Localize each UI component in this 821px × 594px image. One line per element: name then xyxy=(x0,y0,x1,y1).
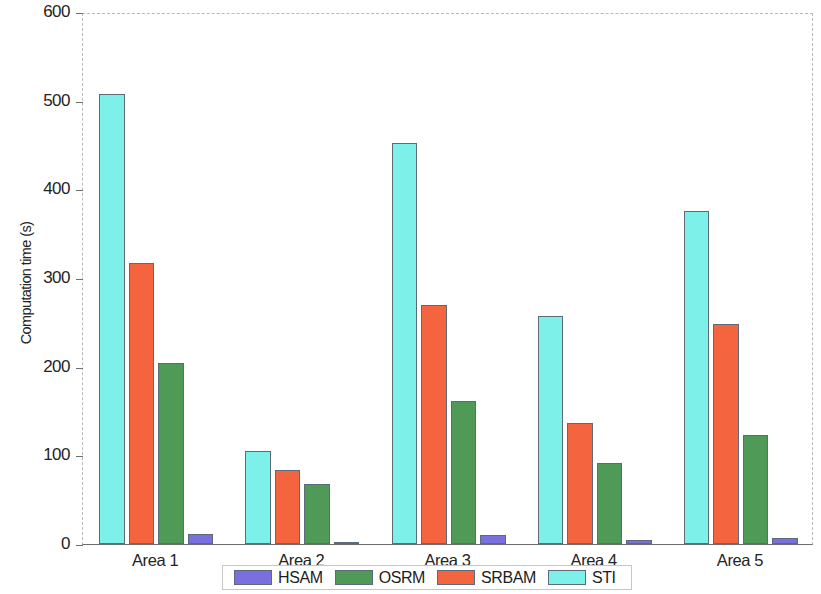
y-tick-label: 0 xyxy=(61,534,70,554)
y-tick-label: 200 xyxy=(43,357,70,377)
x-tick-label-area-5: Area 5 xyxy=(680,551,800,570)
y-tick-mark xyxy=(76,368,83,369)
bar-sti-area-4 xyxy=(538,316,564,544)
y-tick-label: 600 xyxy=(43,2,70,22)
legend-entry-hsam[interactable]: HSAM xyxy=(230,569,331,587)
bar-hsam-area-4 xyxy=(626,540,652,544)
bar-osrm-area-4 xyxy=(597,463,623,544)
bar-chart-figure: Computation time (s) 0100200300400500600… xyxy=(0,0,821,594)
y-tick-mark xyxy=(76,456,83,457)
y-tick-mark xyxy=(76,13,83,14)
legend-entry-srbam[interactable]: SRBAM xyxy=(433,569,544,587)
y-tick-mark xyxy=(76,190,83,191)
bar-sti-area-3 xyxy=(392,143,418,544)
x-tick-label-area-1: Area 1 xyxy=(95,551,215,570)
bar-srbam-area-2 xyxy=(275,470,301,544)
bar-osrm-area-1 xyxy=(158,363,184,544)
legend-label-osrm: OSRM xyxy=(379,569,425,587)
y-axis-title: Computation time (s) xyxy=(18,183,34,383)
y-tick-label: 500 xyxy=(43,91,70,111)
y-tick-mark xyxy=(76,279,83,280)
y-tick-label: 300 xyxy=(43,268,70,288)
y-tick-mark xyxy=(76,102,83,103)
bar-hsam-area-3 xyxy=(480,535,506,544)
plot-area: 0100200300400500600 xyxy=(82,13,813,545)
bar-hsam-area-2 xyxy=(334,542,360,544)
chart-legend: HSAMOSRMSRBAMSTI xyxy=(222,565,632,590)
legend-swatch-hsam xyxy=(234,570,272,585)
bar-srbam-area-3 xyxy=(421,305,447,544)
bar-srbam-area-1 xyxy=(129,263,155,544)
y-tick-label: 100 xyxy=(43,445,70,465)
y-tick-mark xyxy=(76,545,83,546)
bar-osrm-area-2 xyxy=(304,484,330,544)
legend-entry-osrm[interactable]: OSRM xyxy=(331,569,433,587)
bar-srbam-area-5 xyxy=(713,324,739,544)
bar-osrm-area-3 xyxy=(451,401,477,544)
legend-swatch-srbam xyxy=(437,570,475,585)
bar-srbam-area-4 xyxy=(567,423,593,544)
y-tick-label: 400 xyxy=(43,179,70,199)
bar-sti-area-1 xyxy=(99,94,125,544)
bar-osrm-area-5 xyxy=(743,435,769,544)
legend-swatch-sti xyxy=(548,570,586,585)
legend-swatch-osrm xyxy=(335,570,373,585)
legend-entry-sti[interactable]: STI xyxy=(544,569,624,587)
bar-hsam-area-5 xyxy=(772,538,798,544)
bar-hsam-area-1 xyxy=(188,534,214,544)
legend-label-srbam: SRBAM xyxy=(481,569,536,587)
bar-sti-area-2 xyxy=(245,451,271,544)
legend-label-sti: STI xyxy=(592,569,616,587)
bar-sti-area-5 xyxy=(684,211,710,544)
legend-label-hsam: HSAM xyxy=(278,569,323,587)
